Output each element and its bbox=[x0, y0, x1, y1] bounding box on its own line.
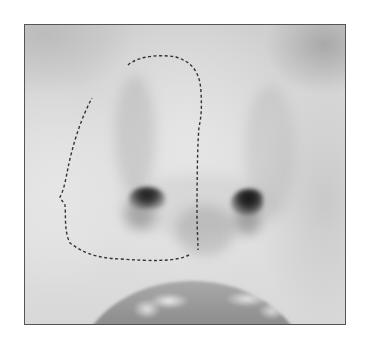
photo-frame bbox=[24, 24, 346, 325]
left-nostril bbox=[129, 187, 165, 209]
nose-bridge-shadow-left bbox=[115, 75, 155, 195]
right-nostril bbox=[231, 189, 263, 215]
columella-shadow bbox=[175, 205, 235, 255]
